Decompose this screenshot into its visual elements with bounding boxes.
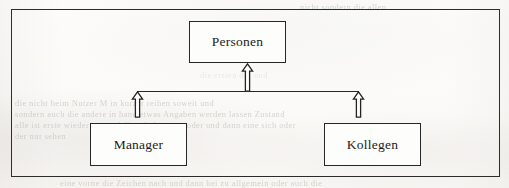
bleed-through-text: die nicht beim Nutzer M in kurzer reihen… — [15, 98, 214, 108]
class-box-manager[interactable]: Manager — [90, 123, 187, 166]
bleed-through-text: sondern auch die andere in hand etwas An… — [15, 109, 285, 119]
scanned-figure: nicht sondern die allen die ersten der u… — [0, 0, 509, 188]
bleed-through-text: der nur sehen — [15, 131, 66, 141]
class-label-personen: Personen — [212, 35, 264, 49]
class-box-personen[interactable]: Personen — [189, 21, 286, 63]
class-label-kollegen: Kollegen — [347, 138, 399, 152]
bleed-through-text: eine vorne die Zeichen nach und dann bei… — [60, 178, 322, 188]
generalization-arrow-from-kollegen-icon — [352, 91, 365, 117]
class-label-manager: Manager — [114, 138, 164, 152]
generalization-arrow-to-personen-icon — [241, 63, 254, 89]
class-box-kollegen[interactable]: Kollegen — [324, 123, 421, 166]
generalization-arrow-from-manager-icon — [131, 91, 144, 117]
figure-outer-frame: die nicht beim Nutzer M in kurzer reihen… — [11, 9, 500, 177]
